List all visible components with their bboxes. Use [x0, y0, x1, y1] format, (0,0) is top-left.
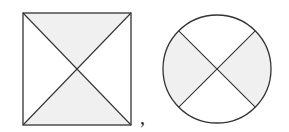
square-top-shaded-triangle — [23, 13, 131, 69]
square-figure — [23, 13, 131, 125]
square-bottom-shaded-triangle — [23, 69, 131, 125]
separator-comma: , — [140, 106, 145, 129]
circle-figure — [163, 15, 271, 123]
